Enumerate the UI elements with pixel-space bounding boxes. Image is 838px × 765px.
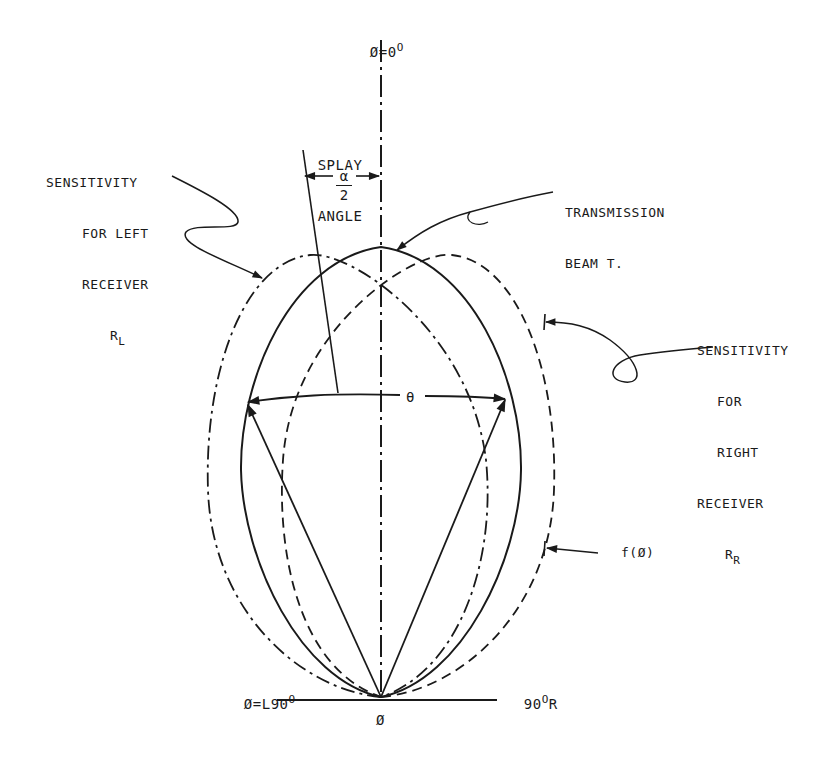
phi-symbol: Ø <box>370 44 379 60</box>
right-theta-ray <box>381 400 505 697</box>
left-receiver-label: SENSITIVITY FOR LEFT RECEIVER RL <box>46 140 149 362</box>
theta-label: θ <box>406 389 415 405</box>
axis-top-label: Ø=0O <box>352 28 404 62</box>
function-leader <box>547 548 598 553</box>
transmission-leader <box>397 192 553 250</box>
axis-bottom-label: Ø <box>376 712 385 728</box>
function-label: f(Ø) <box>621 545 654 561</box>
left-receiver-curve <box>208 255 488 697</box>
theta-arrow-right <box>425 396 505 399</box>
right-receiver-leader <box>546 322 713 382</box>
right-receiver-label: SENSITIVITY FOR RIGHT RECEIVER RR <box>697 308 789 581</box>
left-theta-ray <box>248 405 381 697</box>
left-receiver-leader <box>172 176 262 278</box>
right-baseline-label: 90OR <box>506 680 558 714</box>
alpha-over-two: α 2 <box>334 168 354 203</box>
right-receiver-tick <box>544 314 545 330</box>
theta-arrow-left <box>248 394 400 402</box>
function-leader-tick <box>544 541 545 556</box>
transmission-leader-loop <box>468 212 488 224</box>
right-receiver-curve <box>282 255 554 697</box>
left-baseline-label: Ø=L90O <box>226 680 296 714</box>
transmission-beam-label: TRANSMISSION BEAM T. <box>565 170 665 289</box>
